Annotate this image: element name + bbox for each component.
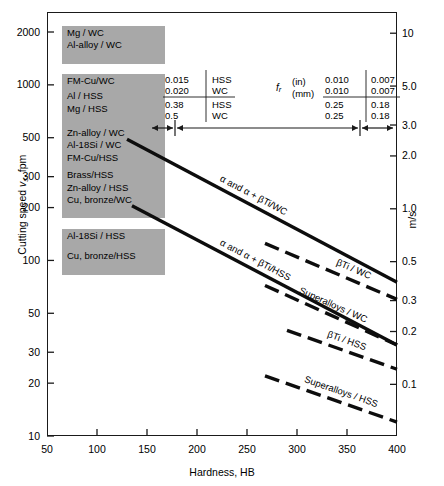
y-tick-left-200: 200 xyxy=(0,202,40,213)
material-band-3: Al / HSSMg / HSS xyxy=(62,89,165,125)
feed-left-in-1: 0.020 xyxy=(165,85,189,97)
material-band-1: Al-alloy / WC xyxy=(62,38,165,64)
y-tick-right-10: 10 xyxy=(402,28,436,39)
y-tick-right-1.0: 1.0 xyxy=(402,203,436,214)
feed-rightB-mm-0: 0.18 xyxy=(371,99,390,111)
feed-left-tool-3: WC xyxy=(212,110,228,122)
machinability-chart: Cutting speed vs, fpm m/s Hardness, HB 1… xyxy=(0,0,444,486)
material-band-5: Brass/HSSZn-alloy / HSSCu, bronze/WC xyxy=(62,168,165,218)
feed-rightA-mm-1: 0.25 xyxy=(325,110,344,122)
y-tick-left-100: 100 xyxy=(0,255,40,266)
material-band-line: Mg / HSS xyxy=(67,103,161,115)
material-band-line: Al-18Si / HSS xyxy=(67,230,161,242)
material-band-line: Cu, bronze/HSS xyxy=(67,250,161,262)
y-tick-right-0.2: 0.2 xyxy=(402,326,436,337)
feed-rightA-in-0: 0.010 xyxy=(325,74,349,86)
x-tick-400: 400 xyxy=(377,444,417,455)
y-tick-right-3.0: 3.0 xyxy=(402,120,436,131)
feed-rightB-in-0: 0.007 xyxy=(371,74,395,86)
feed-rightA-mm-0: 0.25 xyxy=(325,99,344,111)
y-tick-left-10: 10 xyxy=(0,431,40,442)
feed-left-mm-0: 0.38 xyxy=(165,99,184,111)
feed-rightA-in-1: 0.010 xyxy=(325,85,349,97)
y-tick-right-0.1: 0.1 xyxy=(402,379,436,390)
material-band-line: Al-alloy / WC xyxy=(67,39,161,51)
x-tick-100: 100 xyxy=(77,444,117,455)
material-band-line: FM-Cu/WC xyxy=(67,75,161,87)
feed-rightB-mm-1: 0.18 xyxy=(371,110,390,122)
y-tick-left-20: 20 xyxy=(0,378,40,389)
x-tick-350: 350 xyxy=(327,444,367,455)
feed-left-tool-1: WC xyxy=(212,85,228,97)
material-band-line: Brass/HSS xyxy=(67,169,161,181)
y-tick-left-500: 500 xyxy=(0,132,40,143)
y-tick-left-50: 50 xyxy=(0,308,40,319)
y-tick-right-0.5: 0.5 xyxy=(402,256,436,267)
material-band-line: Zn-alloy / WC xyxy=(67,127,161,139)
y-tick-right-2.0: 2.0 xyxy=(402,150,436,161)
material-band-4: Zn-alloy / WCAl-18Si / WCFM-Cu/HSS xyxy=(62,126,165,172)
material-band-line: Cu, bronze/WC xyxy=(67,194,161,206)
material-band-line: Al / HSS xyxy=(67,90,161,102)
material-band-line: Zn-alloy / HSS xyxy=(67,182,161,194)
x-axis-title: Hardness, HB xyxy=(47,466,397,478)
x-tick-200: 200 xyxy=(177,444,217,455)
y-tick-left-300: 300 xyxy=(0,171,40,182)
feed-left-tool-2: HSS xyxy=(212,99,232,111)
y-tick-right-0.3: 0.3 xyxy=(402,295,436,306)
feed-rightB-in-1: 0.007 xyxy=(371,85,395,97)
x-tick-300: 300 xyxy=(277,444,317,455)
x-tick-250: 250 xyxy=(227,444,267,455)
feed-left-in-0: 0.015 xyxy=(165,74,189,86)
feed-symbol: fr xyxy=(276,82,281,94)
y-tick-right-5.0: 5.0 xyxy=(402,81,436,92)
x-tick-150: 150 xyxy=(127,444,167,455)
y-tick-left-30: 30 xyxy=(0,347,40,358)
material-band-7: Cu, bronze/HSS xyxy=(62,249,165,276)
y-tick-left-1000: 1000 xyxy=(0,79,40,90)
feed-unit-in: (in) xyxy=(292,76,306,88)
x-tick-50: 50 xyxy=(27,444,67,455)
material-band-line: FM-Cu/HSS xyxy=(67,152,161,164)
material-band-line: Al-18Si / WC xyxy=(67,139,161,151)
feed-unit-mm: (mm) xyxy=(292,88,314,100)
feed-left-tool-0: HSS xyxy=(212,74,232,86)
y-tick-left-2000: 2000 xyxy=(0,27,40,38)
feed-left-mm-1: 0.5 xyxy=(165,110,178,122)
